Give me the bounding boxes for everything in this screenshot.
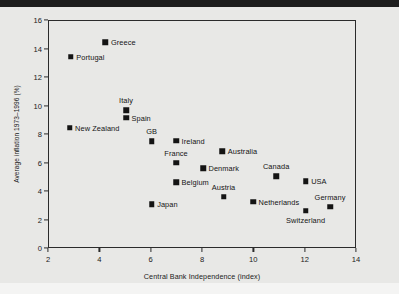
- x-axis-tick-mark: [150, 248, 151, 252]
- y-axis-tick-label: 14: [34, 44, 42, 53]
- data-point: [250, 199, 256, 205]
- plot-area: GreecePortugalItalySpainNew ZealandGBIre…: [48, 20, 356, 248]
- x-axis-label: Central Bank Independence (index): [144, 272, 260, 281]
- y-axis-tick-label: 2: [38, 215, 42, 224]
- data-point: [173, 138, 179, 144]
- data-point-label: Denmark: [209, 164, 240, 173]
- x-axis-tick-label: 14: [352, 255, 360, 264]
- data-point: [103, 40, 109, 46]
- x-axis-tick-mark: [253, 248, 254, 252]
- data-point: [173, 179, 179, 185]
- data-point-label: Portugal: [76, 52, 104, 61]
- data-point-label: France: [164, 149, 187, 158]
- data-point-label: Italy: [119, 96, 133, 105]
- data-point: [149, 139, 155, 145]
- data-point: [220, 149, 226, 155]
- data-point: [327, 204, 333, 210]
- data-point-label: USA: [311, 177, 326, 186]
- x-axis-tick-label: 4: [97, 255, 101, 264]
- x-axis-tick-mark: [355, 248, 356, 252]
- data-point: [221, 194, 227, 200]
- data-point-label: Canada: [263, 162, 289, 171]
- x-axis-tick-label: 2: [46, 255, 50, 264]
- data-point: [67, 125, 73, 131]
- x-axis-tick-label: 6: [149, 255, 153, 264]
- x-axis-tick-label: 10: [249, 255, 257, 264]
- data-point-label: Austria: [212, 183, 236, 192]
- y-axis-tick-label: 12: [34, 73, 42, 82]
- data-point-label: Japan: [157, 200, 178, 209]
- y-axis-tick-label: 10: [34, 101, 42, 110]
- x-axis-tick-mark: [201, 248, 202, 252]
- y-axis-tick-label: 0: [38, 244, 42, 253]
- data-point-label: Greece: [111, 38, 136, 47]
- y-axis-tick-label: 6: [38, 158, 42, 167]
- data-point-label: Ireland: [182, 136, 205, 145]
- scan-band-top: [0, 0, 399, 7]
- data-point-label: New Zealand: [75, 123, 119, 132]
- data-point: [149, 201, 155, 207]
- x-axis-tick-label: 8: [200, 255, 204, 264]
- y-axis-label: Average inflation 1973–1996 (%): [13, 85, 20, 183]
- x-axis-tick-mark: [99, 248, 100, 252]
- data-point-label: Netherlands: [259, 197, 300, 206]
- data-point-label: Australia: [228, 147, 257, 156]
- data-point-label: Germany: [315, 193, 346, 202]
- page-margin-bottom: [0, 283, 399, 294]
- data-point-label: Switzerland: [286, 216, 325, 225]
- x-axis-tick-mark: [47, 248, 48, 252]
- data-point-label: GB: [146, 127, 157, 136]
- data-point: [123, 115, 129, 121]
- data-point: [303, 208, 309, 214]
- data-point: [303, 179, 309, 185]
- x-axis-tick-label: 12: [300, 255, 308, 264]
- y-axis-tick-label: 4: [38, 187, 42, 196]
- data-point: [173, 160, 179, 166]
- data-point-label: Spain: [132, 113, 151, 122]
- data-point-label: Belgium: [182, 178, 209, 187]
- y-axis-tick-label: 16: [34, 16, 42, 25]
- data-point: [200, 166, 206, 172]
- chart-figure: Average inflation 1973–1996 (%) Central …: [0, 0, 399, 294]
- y-axis-tick-label: 8: [38, 130, 42, 139]
- x-axis-tick-mark: [304, 248, 305, 252]
- data-point: [273, 174, 279, 180]
- data-point: [68, 54, 74, 60]
- data-point: [123, 107, 129, 113]
